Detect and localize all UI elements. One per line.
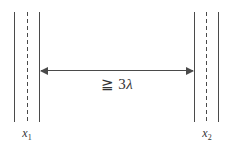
arrowhead-left-icon	[40, 67, 48, 75]
arrowhead-right-icon	[186, 67, 194, 75]
lambda-symbol: λ	[126, 76, 133, 92]
right-inner-solid-line	[194, 12, 195, 122]
x2-label-subscript: 2	[208, 133, 212, 142]
distance-label: ≧3λ	[40, 75, 194, 93]
x2-label: x2	[193, 126, 221, 142]
left-outer-solid-line	[14, 12, 15, 122]
left-dashed-line	[27, 12, 28, 122]
geq-symbol: ≧	[101, 75, 119, 93]
distance-arrow	[41, 70, 193, 71]
distance-diagram: ≧3λ x1 x2	[0, 0, 231, 149]
right-dashed-line	[206, 12, 207, 122]
x1-label: x1	[13, 126, 41, 142]
right-outer-solid-line	[218, 12, 219, 122]
x1-label-subscript: 1	[28, 133, 32, 142]
